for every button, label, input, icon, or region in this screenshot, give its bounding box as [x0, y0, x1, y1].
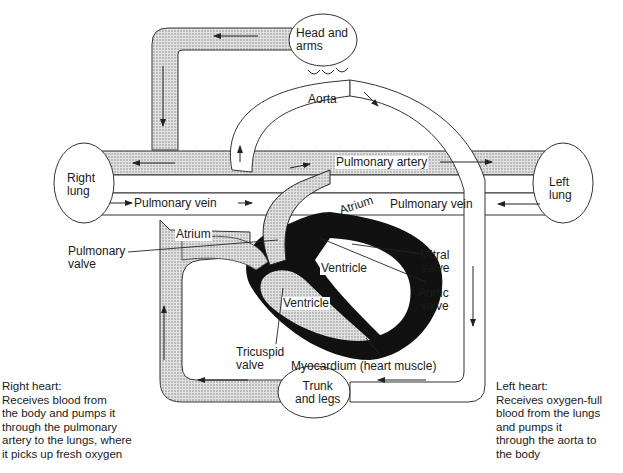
right-ventricle-label: Ventricle: [282, 297, 330, 310]
aorta-label: Aorta: [308, 93, 337, 106]
pulmonary-valve-label: Pulmonary valve: [68, 245, 125, 271]
aortic-valve-label: Aortic valve: [418, 287, 449, 313]
right-lung-label: Right lung: [67, 172, 95, 198]
pulmonary-vein-left-label: Pulmonary vein: [390, 198, 473, 211]
right-atrium: [182, 236, 268, 270]
tricuspid-valve-label: Tricuspid valve: [236, 346, 284, 372]
head-arms-label: Head and arms: [296, 27, 348, 53]
left-lung-label: Left lung: [549, 176, 572, 202]
pulmonary-artery-label: Pulmonary artery: [335, 156, 428, 169]
pulmonary-vein: [110, 175, 558, 193]
mitral-valve-label: Mitral valve: [420, 249, 449, 275]
right-heart-caption: Right heart: Receives blood from the bod…: [2, 380, 132, 461]
left-heart-caption: Left heart: Receives oxygen-full blood f…: [496, 380, 602, 461]
right-atrium-label: Atrium: [175, 228, 212, 241]
myocardium-label: Myocardium (heart muscle): [291, 360, 436, 373]
trunk-legs-label: Trunk and legs: [295, 380, 340, 406]
vena-cava-superior: [152, 28, 292, 150]
left-ventricle-label: Ventricle: [320, 262, 368, 275]
pulmonary-vein-right-label: Pulmonary vein: [134, 197, 217, 210]
